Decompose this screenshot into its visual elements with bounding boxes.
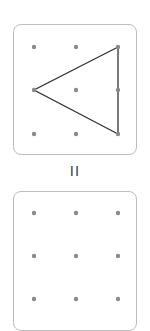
peg-dot bbox=[74, 132, 78, 136]
peg-dot bbox=[74, 211, 78, 215]
peg-dot bbox=[32, 88, 36, 92]
peg-dot bbox=[32, 211, 36, 215]
peg-dot bbox=[74, 254, 78, 258]
peg-dot bbox=[74, 45, 78, 49]
peg-dot bbox=[74, 297, 78, 301]
peg-dot bbox=[116, 132, 120, 136]
peg-dot bbox=[32, 132, 36, 136]
equals-separator: II bbox=[0, 163, 150, 179]
peg-dot bbox=[116, 88, 120, 92]
peg-dot bbox=[32, 45, 36, 49]
peg-dot bbox=[116, 45, 120, 49]
peg-dot bbox=[116, 254, 120, 258]
peg-dot bbox=[74, 88, 78, 92]
peg-dot bbox=[116, 211, 120, 215]
peg-dot bbox=[32, 297, 36, 301]
peg-dot bbox=[116, 297, 120, 301]
peg-dot bbox=[32, 254, 36, 258]
